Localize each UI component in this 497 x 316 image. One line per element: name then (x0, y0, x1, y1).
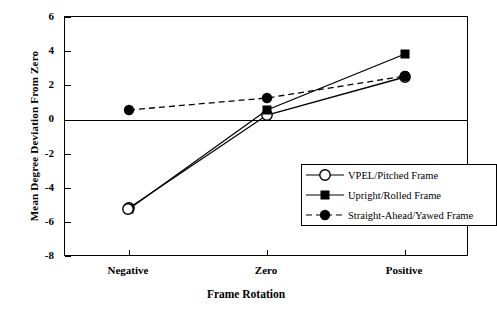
legend-label-straight-ahead-yawed-frame: Straight-Ahead/Yawed Frame (348, 210, 473, 221)
y-tick-label-6: 6 (28, 10, 54, 22)
filled-circle-icon (302, 205, 348, 225)
x-tick-label-zero: Zero (206, 264, 326, 276)
filled-square-icon (302, 185, 348, 205)
x-tick-label-positive: Positive (344, 264, 464, 276)
x-tick-label-negative: Negative (68, 264, 188, 276)
legend-label-vpel-pitched-frame: VPEL/Pitched Frame (348, 170, 438, 181)
y-tick-label-neg6: -6 (28, 215, 54, 227)
y-tick-label-4: 4 (28, 44, 54, 56)
y-tick-label-2: 2 (28, 78, 54, 90)
data-point-straight-ahead-negative (124, 105, 134, 115)
data-point-vpel-negative-overlay (123, 204, 133, 214)
plot-area: VPEL/Pitched Frame Upright/Rolled Frame (64, 16, 468, 256)
data-point-upright-positive (401, 50, 410, 59)
y-axis-title: Mean Degree Deviation From Zero (28, 26, 40, 246)
legend: VPEL/Pitched Frame Upright/Rolled Frame (301, 164, 497, 226)
y-tick-label-neg8: -8 (28, 249, 54, 261)
legend-item-straight-ahead-yawed-frame: Straight-Ahead/Yawed Frame (302, 205, 496, 225)
y-tick-label-neg2: -2 (28, 147, 54, 159)
x-axis-title: Frame Rotation (0, 288, 492, 300)
open-circle-icon (302, 165, 348, 185)
legend-label-upright-rolled-frame: Upright/Rolled Frame (348, 190, 441, 201)
data-point-straight-ahead-positive-overlay (400, 71, 410, 81)
data-point-straight-ahead-zero (262, 93, 272, 103)
legend-item-upright-rolled-frame: Upright/Rolled Frame (302, 185, 496, 205)
data-point-upright-zero (263, 106, 272, 115)
y-tick-label-neg4: -4 (28, 181, 54, 193)
legend-item-vpel-pitched-frame: VPEL/Pitched Frame (302, 165, 496, 185)
y-tick-label-0: 0 (28, 112, 54, 124)
